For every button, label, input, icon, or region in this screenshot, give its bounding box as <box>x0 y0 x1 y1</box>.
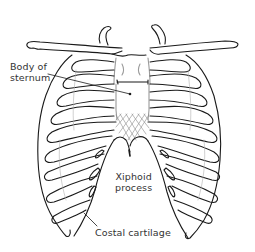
manubrium <box>112 54 150 84</box>
label-costal-cartilage: Costal cartilage <box>95 227 171 238</box>
ribcage-diagram: Body of sternum Xiphoid process Costal c… <box>0 0 255 252</box>
xiphoid-process <box>114 137 148 152</box>
label-xiphoid-process-line2: process <box>115 182 152 193</box>
label-xiphoid-process-line1: Xiphoid <box>115 171 152 182</box>
left-ribs <box>45 60 116 224</box>
xiphoid-tip <box>129 150 130 156</box>
sternum-leader-dot <box>129 93 132 96</box>
ribcage-illustration <box>0 0 255 252</box>
xiphoid-hatching <box>116 114 149 140</box>
costal-cartilage-leader-line <box>84 213 97 226</box>
label-body-of-sternum-line2: sternum <box>10 72 50 83</box>
left-clavicle <box>27 27 122 55</box>
label-body-of-sternum: Body of sternum <box>10 61 50 83</box>
label-xiphoid-process: Xiphoid process <box>115 171 152 193</box>
right-ribs <box>148 60 219 224</box>
right-clavicle <box>150 25 238 54</box>
sternal-angle <box>117 80 148 84</box>
label-body-of-sternum-line1: Body of <box>10 61 50 72</box>
